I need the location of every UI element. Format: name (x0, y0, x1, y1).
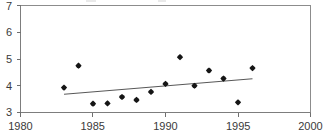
y-tick-label-3: 3 (6, 106, 12, 118)
scatter-plot-figure: 3 4 5 6 7 1980 1985 1990 1995 2000 (0, 0, 324, 138)
x-tick-label-1995: 1995 (226, 120, 250, 132)
x-tick-label-1990: 1990 (153, 120, 177, 132)
x-tick-label-1985: 1985 (81, 120, 105, 132)
y-tick-label-7: 7 (6, 0, 12, 12)
y-tick-label-6: 6 (6, 26, 12, 38)
chart-background (0, 0, 324, 138)
chart-canvas: 3 4 5 6 7 1980 1985 1990 1995 2000 (0, 0, 324, 138)
y-tick-label-5: 5 (6, 53, 12, 65)
x-tick-label-1980: 1980 (8, 120, 32, 132)
x-tick-label-2000: 2000 (298, 120, 322, 132)
y-tick-label-4: 4 (6, 80, 12, 92)
